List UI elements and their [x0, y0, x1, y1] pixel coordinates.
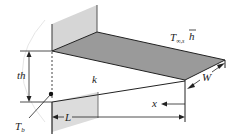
ambient-temp-label: T∞,s [170, 31, 185, 44]
fin-diagram: T∞,s h th k W x L Tb [0, 0, 240, 140]
guide-arc [23, 20, 46, 122]
x-arrow [161, 102, 167, 107]
h-bar-label: h [189, 30, 195, 42]
conductivity-label: k [92, 73, 98, 85]
th-arrow-up [27, 51, 32, 57]
fin-bottom-edge [52, 81, 185, 102]
thickness-label: th [17, 69, 26, 81]
base-temp-label: Tb [15, 120, 25, 134]
position-label: x [151, 97, 157, 109]
base-temp-leader [29, 94, 51, 118]
l-arrow-right [179, 115, 185, 120]
width-label: W [202, 71, 212, 83]
length-label: L [64, 111, 71, 123]
